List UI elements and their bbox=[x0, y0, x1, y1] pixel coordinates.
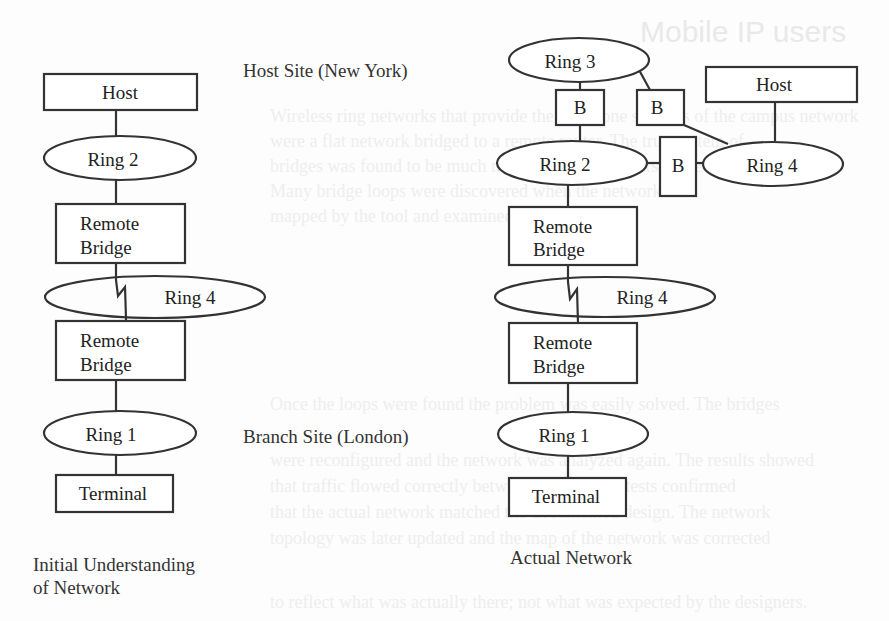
remote-bridge-top-node: Remote Bridge bbox=[56, 204, 185, 263]
caption-line1: Initial Understanding bbox=[33, 554, 195, 575]
bleed-line: Many bridge loops were discovered when t… bbox=[270, 181, 694, 201]
ring-1-label: Ring 1 bbox=[85, 424, 136, 445]
caption: Actual Network bbox=[510, 547, 632, 568]
terminal-node: Terminal bbox=[509, 478, 626, 516]
ring-4-lower-node: Ring 4 bbox=[495, 277, 715, 317]
bridge-b-left-node: B bbox=[556, 90, 604, 125]
host-label: Host bbox=[102, 82, 139, 103]
ring-4-label: Ring 4 bbox=[164, 287, 216, 308]
bleed-line: that traffic flowed correctly between si… bbox=[270, 476, 736, 496]
bleed-heading: Mobile IP users bbox=[640, 15, 846, 48]
host-node: Host bbox=[44, 74, 197, 110]
ring-2-label: Ring 2 bbox=[539, 154, 590, 175]
caption-line2: of Network bbox=[33, 577, 121, 598]
host-label: Host bbox=[756, 74, 793, 95]
remote-bridge-label-line1: Remote bbox=[80, 330, 139, 351]
bridge-b-left-label: B bbox=[574, 97, 587, 118]
ring-3-node: Ring 3 bbox=[509, 38, 649, 82]
ring-2-node: Ring 2 bbox=[497, 141, 647, 185]
host-node: Host bbox=[706, 67, 857, 102]
bleed-line: topology was later updated and the map o… bbox=[270, 528, 770, 548]
host-site-label: Host Site (New York) bbox=[243, 60, 408, 82]
bleed-line: to reflect what was actually there; not … bbox=[270, 592, 807, 612]
bridge-b-right-label: B bbox=[651, 97, 664, 118]
bridge-b-middle-node: B bbox=[660, 137, 696, 196]
ring-2-label: Ring 2 bbox=[87, 149, 138, 170]
ring-4-lower-label: Ring 4 bbox=[616, 287, 668, 308]
remote-bridge-label-line1: Remote bbox=[533, 332, 592, 353]
bridge-b-middle-label: B bbox=[672, 155, 685, 176]
remote-bridge-top-node: Remote Bridge bbox=[509, 207, 637, 265]
ring-2-node: Ring 2 bbox=[44, 136, 196, 180]
terminal-label: Terminal bbox=[79, 483, 147, 504]
network-diagram-figure: Mobile IP users Wireless ring networks t… bbox=[0, 0, 889, 621]
remote-bridge-label-line2: Bridge bbox=[80, 354, 132, 375]
ring-1-node: Ring 1 bbox=[44, 411, 196, 455]
branch-site-label: Branch Site (London) bbox=[243, 426, 409, 448]
ring-4-node: Ring 4 bbox=[45, 276, 265, 318]
remote-bridge-label-line2: Bridge bbox=[533, 239, 585, 260]
bridge-b-right-node: B bbox=[637, 90, 684, 125]
remote-bridge-label-line1: Remote bbox=[80, 213, 139, 234]
ring-4-upper-label: Ring 4 bbox=[746, 155, 798, 176]
ring-1-label: Ring 1 bbox=[538, 425, 589, 446]
terminal-label: Terminal bbox=[532, 486, 600, 507]
ring-3-label: Ring 3 bbox=[544, 51, 595, 72]
remote-bridge-bottom-node: Remote Bridge bbox=[509, 323, 637, 383]
ring-1-node: Ring 1 bbox=[498, 412, 648, 456]
remote-bridge-bottom-node: Remote Bridge bbox=[56, 321, 185, 380]
remote-bridge-label-line2: Bridge bbox=[533, 356, 585, 377]
ring-4-upper-node: Ring 4 bbox=[703, 142, 843, 186]
remote-bridge-label-line2: Bridge bbox=[80, 237, 132, 258]
terminal-node: Terminal bbox=[56, 475, 173, 512]
remote-bridge-label-line1: Remote bbox=[533, 216, 592, 237]
bleed-line: Once the loops were found the problem wa… bbox=[270, 394, 780, 414]
